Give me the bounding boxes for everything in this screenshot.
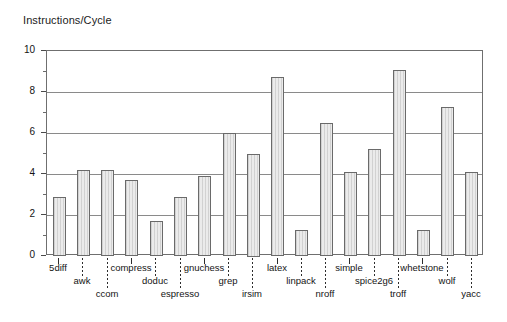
x-tick-label-troff: troff [390, 289, 406, 299]
y-tick-label-0: 0 [13, 250, 35, 260]
x-tick-label-whetstone: whetstone [400, 263, 443, 273]
y-tick-label-2: 2 [13, 209, 35, 219]
x-tick-espresso [180, 258, 181, 290]
y-tick-label-8: 8 [13, 86, 35, 96]
bar-gnuchess [198, 176, 211, 256]
x-tick-nroff [325, 258, 326, 290]
x-tick-yacc [471, 258, 472, 290]
x-tick-label-5diff: 5diff [49, 263, 67, 273]
x-tick-label-ccom: ccom [96, 289, 119, 299]
bar-hatch [54, 198, 65, 255]
bar-grep [223, 133, 236, 256]
y-minor-tick-3 [43, 194, 46, 195]
bar-5diff [53, 197, 66, 256]
y-tick-10 [41, 50, 46, 51]
y-minor-tick-5 [43, 153, 46, 154]
bar-hatch [345, 173, 356, 255]
x-tick-label-grep: grep [218, 276, 237, 286]
y-tick-0 [41, 255, 46, 256]
x-tick-label-gnuchess: gnuchess [184, 263, 225, 273]
x-tick-label-yacc: yacc [461, 289, 481, 299]
plot-area [46, 50, 483, 255]
y-tick-8 [41, 91, 46, 92]
x-tick-label-espresso: espresso [161, 289, 200, 299]
bar-hatch [466, 173, 477, 255]
bar-wolf [441, 107, 454, 256]
bar-doduc [150, 221, 163, 256]
bar-hatch [394, 71, 405, 255]
bar-spice2g6 [368, 149, 381, 256]
bar-linpack [295, 230, 308, 256]
bar-irsim [247, 154, 260, 257]
x-tick-label-compress: compress [110, 263, 151, 273]
bar-hatch [224, 134, 235, 255]
y-tick-label-6: 6 [13, 127, 35, 137]
bar-hatch [78, 171, 89, 255]
y-tick-6 [41, 132, 46, 133]
bar-espresso [174, 197, 187, 256]
x-tick-label-latex: latex [267, 263, 287, 273]
bar-simple [344, 172, 357, 256]
y-tick-4 [41, 173, 46, 174]
bar-hatch [102, 171, 113, 255]
x-tick-label-wolf: wolf [439, 276, 456, 286]
bar-hatch [296, 231, 307, 255]
bar-troff [393, 70, 406, 256]
gridline-y-8 [47, 92, 482, 93]
bar-hatch [321, 124, 332, 255]
bar-hatch [126, 181, 137, 255]
x-tick-label-simple: simple [335, 263, 362, 273]
x-tick-label-doduc: doduc [142, 276, 168, 286]
bar-awk [77, 170, 90, 256]
bar-hatch [248, 155, 259, 256]
bar-yacc [465, 172, 478, 256]
instructions-per-cycle-bar-chart: Instructions/Cycle 0246810 5diffawkccomc… [0, 0, 507, 322]
chart-title: Instructions/Cycle [23, 14, 112, 27]
y-minor-tick-1 [43, 235, 46, 236]
x-tick-label-irsim: irsim [242, 289, 262, 299]
x-tick-troff [398, 258, 399, 290]
bar-hatch [442, 108, 453, 255]
x-tick-ccom [107, 258, 108, 290]
bar-hatch [199, 177, 210, 255]
y-tick-2 [41, 214, 46, 215]
x-tick-label-linpack: linpack [286, 276, 316, 286]
x-tick-label-nroff: nroff [316, 289, 335, 299]
bar-hatch [369, 150, 380, 255]
bar-hatch [272, 78, 283, 255]
y-tick-label-4: 4 [13, 168, 35, 178]
y-tick-label-10: 10 [13, 45, 35, 55]
bar-ccom [101, 170, 114, 256]
bar-hatch [175, 198, 186, 255]
bar-whetstone [417, 230, 430, 256]
x-tick-label-awk: awk [74, 276, 91, 286]
x-tick-label-spice2g6: spice2g6 [355, 276, 393, 286]
bar-hatch [418, 231, 429, 255]
y-minor-tick-7 [43, 112, 46, 113]
bar-hatch [151, 222, 162, 255]
bar-nroff [320, 123, 333, 256]
bar-compress [125, 180, 138, 256]
gridline-y-6 [47, 133, 482, 134]
y-minor-tick-9 [43, 71, 46, 72]
x-tick-irsim [252, 258, 253, 290]
bar-latex [271, 77, 284, 256]
